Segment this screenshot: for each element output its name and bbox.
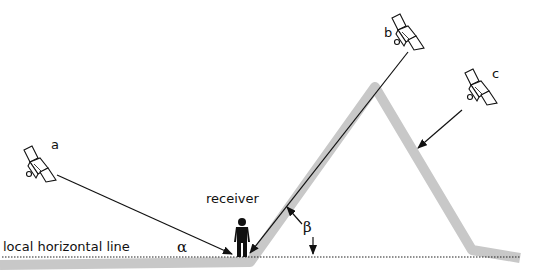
beta-label: β: [303, 220, 312, 235]
receiver-person-icon: [234, 218, 250, 257]
receiver-label: receiver: [206, 192, 259, 205]
satellite-b-icon: [392, 14, 424, 50]
satellite-a-label: a: [51, 138, 59, 151]
satellite-b-label: b: [384, 26, 392, 39]
diagram-canvas: [0, 0, 534, 275]
signal-line-b: [250, 52, 408, 253]
signal-line-c: [418, 110, 462, 148]
horizon-label: local horizontal line: [3, 240, 130, 253]
satellite-c-label: c: [492, 67, 499, 80]
alpha-label: α: [177, 240, 187, 255]
